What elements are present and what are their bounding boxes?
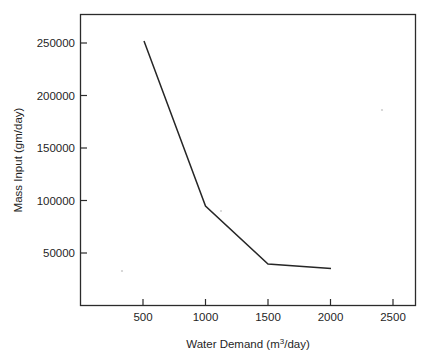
y-tick-label-100000: 100000: [37, 195, 75, 207]
y-tick-label-50000: 50000: [43, 247, 75, 259]
chart-figure: 250000 200000 150000 100000 50000 500 10…: [0, 0, 428, 357]
x-axis-title-suffix: /day): [284, 338, 310, 350]
y-tick-label-200000: 200000: [37, 90, 75, 102]
x-axis-title: Water Demand (m3/day): [186, 337, 310, 350]
y-axis-title: Mass Input (gm/day): [12, 107, 24, 212]
chart-background: [0, 0, 428, 357]
x-tick-label-2000: 2000: [318, 311, 344, 323]
x-tick-label-1500: 1500: [255, 311, 281, 323]
x-tick-label-1000: 1000: [193, 311, 219, 323]
scan-speck: [381, 109, 383, 111]
line-chart: 250000 200000 150000 100000 50000 500 10…: [0, 0, 428, 357]
x-tick-label-500: 500: [133, 311, 152, 323]
y-tick-label-150000: 150000: [37, 142, 75, 154]
x-axis-title-prefix: Water Demand (m: [186, 338, 280, 350]
scan-speck: [220, 210, 222, 212]
y-tick-label-250000: 250000: [37, 37, 75, 49]
scan-speck: [121, 270, 123, 272]
x-tick-label-2500: 2500: [380, 311, 406, 323]
